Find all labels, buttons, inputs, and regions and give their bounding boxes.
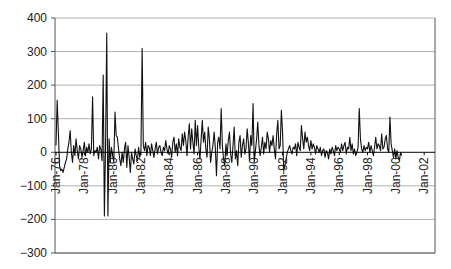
x-tick-label: Jan-86 (191, 157, 205, 194)
x-tick-label: Jan-88 (219, 157, 233, 194)
y-tick-label: 0 (40, 145, 47, 159)
y-tick-label: −300 (20, 246, 47, 260)
y-tick-label: 300 (27, 45, 47, 59)
plot-frame (55, 18, 435, 253)
x-tick-label: Jan-78 (77, 157, 91, 194)
line-chart: 4003002001000−100−200−300 Jan-76Jan-78Ja… (0, 0, 451, 269)
x-tick-label: Jan-90 (247, 157, 261, 194)
x-tick-label: Jan-76 (49, 157, 63, 194)
x-tick-label: Jan-92 (276, 157, 290, 194)
x-tick-label: Jan-84 (162, 157, 176, 194)
x-tick-label: Jan-94 (304, 157, 318, 194)
x-tick-label: Jan-02 (417, 157, 431, 194)
y-tick-label: 400 (27, 11, 47, 25)
x-tick-label: Jan-82 (134, 157, 148, 194)
y-tick-label: 200 (27, 78, 47, 92)
x-tick-label: Jan-98 (361, 157, 375, 194)
x-tick-label: Jan-00 (389, 157, 403, 194)
y-tick-label: 100 (27, 112, 47, 126)
y-axis-tick-labels: 4003002001000−100−200−300 (20, 11, 47, 260)
x-axis-tick-labels: Jan-76Jan-78Jan-80Jan-82Jan-84Jan-86Jan-… (49, 152, 431, 194)
gridlines (51, 18, 435, 253)
x-tick-label: Jan-80 (106, 157, 120, 194)
x-tick-label: Jan-96 (332, 157, 346, 194)
y-tick-label: −100 (20, 179, 47, 193)
y-tick-label: −200 (20, 212, 47, 226)
